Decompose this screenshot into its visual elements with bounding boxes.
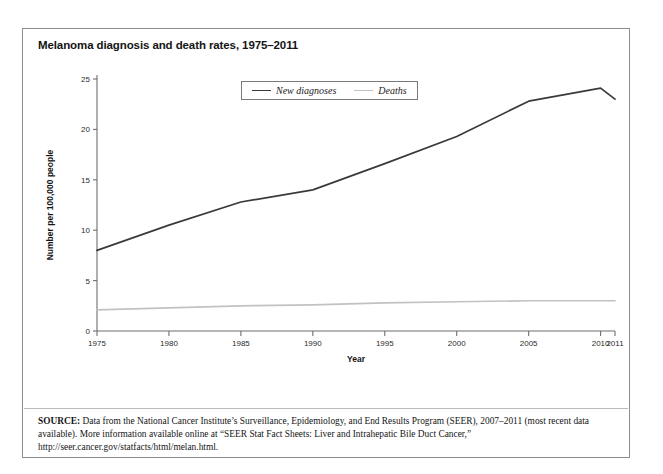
figure-frame: Melanoma diagnosis and death rates, 1975… [22,28,630,458]
note-divider [24,408,628,409]
series-line-deaths [97,301,615,310]
x-axis-tick-label: 1990 [304,339,322,348]
y-axis-title: Number per 100,000 people [45,149,55,260]
series-line-new-diagnoses [97,88,615,250]
x-axis-tick-label: 2011 [606,339,624,348]
x-axis-tick-label: 1985 [232,339,250,348]
source-note-text: Data from the National Cancer Institute’… [38,416,589,452]
y-axis-tick-label: 5 [86,277,91,286]
x-axis-tick-label: 1975 [88,339,106,348]
y-axis-tick-label: 25 [81,75,90,84]
y-axis-tick-label: 15 [81,176,90,185]
figure-title: Melanoma diagnosis and death rates, 1975… [38,39,298,51]
x-axis-tick-label: 2000 [448,339,466,348]
x-axis-tick-label: 1980 [160,339,178,348]
x-axis-tick-label: 1995 [376,339,394,348]
y-axis-tick-label: 0 [86,327,91,336]
chart-plot-area: 0510152025197519801985199019952000200520… [23,65,629,405]
x-axis-title: Year [347,354,366,364]
y-axis-tick-label: 10 [81,226,90,235]
line-chart: 0510152025197519801985199019952000200520… [23,65,629,405]
x-axis-tick-label: 2005 [520,339,538,348]
y-axis-tick-label: 20 [81,125,90,134]
source-note: SOURCE: Data from the National Cancer In… [38,415,616,455]
source-note-label: SOURCE: [38,416,80,426]
